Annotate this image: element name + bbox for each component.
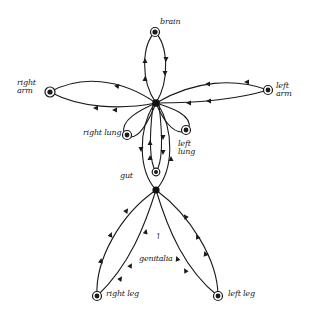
node-left-leg (214, 292, 223, 301)
node-left-arm (264, 86, 273, 95)
left-arm-loop (156, 80, 268, 106)
node-right-leg (93, 292, 102, 301)
label-left-arm: left arm (276, 82, 292, 98)
label-left-leg: left leg (228, 290, 255, 298)
node-brain (151, 28, 160, 37)
node-left-lung (182, 126, 191, 135)
label-right-arm: right arm (17, 79, 36, 95)
brain-loop (143, 32, 169, 103)
label-genitalia: genitalia (139, 255, 173, 263)
label-right-leg: right leg (106, 290, 139, 298)
right-arm-loop (50, 81, 156, 112)
trunk-loop (139, 104, 174, 190)
node-gut (152, 168, 160, 176)
node-center-hub (152, 99, 160, 107)
right-leg-loop (97, 190, 156, 296)
body-flow-diagram (0, 0, 312, 321)
node-lower-hub (152, 186, 159, 193)
node-right-lung (123, 131, 132, 140)
node-right-arm (45, 87, 55, 97)
label-left-lung: left lung (178, 140, 195, 156)
left-leg-loop (156, 190, 218, 296)
label-right-lung: right lung (83, 129, 121, 137)
label-genitalia-arrow: ↑ (155, 233, 162, 241)
label-gut: gut (120, 172, 133, 180)
label-brain: brain (160, 18, 180, 26)
